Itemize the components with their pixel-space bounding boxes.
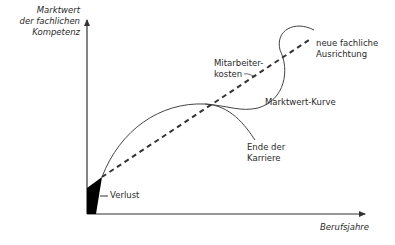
employee-costs-line-1: Mitarbeiter- [214,58,263,69]
employee-costs-label: Mitarbeiter- kosten [214,58,263,80]
employee-costs-line-2: kosten [214,69,263,80]
career-end-label: Ende der Karriere [247,142,285,164]
diagram: Marktwert der fachlichen Kompetenz Mitar… [0,0,395,245]
x-axis-label: Berufsjahre [320,222,369,233]
new-orientation-line-2: Ausrichtung [316,49,378,60]
y-axis-label-line-2: der fachlichen [2,16,80,27]
y-axis-label-line-1: Marktwert [2,5,80,16]
loss-area [87,177,102,214]
y-axis-label: Marktwert der fachlichen Kompetenz [2,5,80,38]
market-value-curve [102,104,255,177]
loss-label: Verlust [110,190,139,201]
career-end-line-1: Ende der [247,142,285,153]
market-value-curve-label: Marktwert-Kurve [265,97,336,108]
new-orientation-line-1: neue fachliche [316,38,378,49]
career-end-line-2: Karriere [247,153,285,164]
new-orientation-label: neue fachliche Ausrichtung [316,38,378,60]
y-axis-label-line-3: Kompetenz [2,27,80,38]
